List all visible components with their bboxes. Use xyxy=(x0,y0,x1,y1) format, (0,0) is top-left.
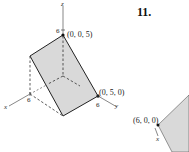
z-tick-6: 6 xyxy=(56,27,60,35)
right-figure xyxy=(155,95,189,152)
diagram-canvas xyxy=(0,0,189,152)
point-label-0-0-5: (0, 0, 5) xyxy=(67,31,92,39)
x-axis-label: x xyxy=(4,104,7,111)
y-axis-label: y xyxy=(115,103,118,110)
point-label-6-0-0: (6, 0, 0) xyxy=(133,117,158,125)
right-x-axis-label: x xyxy=(156,136,159,143)
point-0-0-5 xyxy=(61,33,64,36)
plane-region xyxy=(30,35,98,116)
exercise-number: 11. xyxy=(137,6,151,18)
point-label-0-5-0: (0, 5, 0) xyxy=(99,89,124,97)
x-tick-6: 6 xyxy=(27,96,31,104)
y-tick-6: 6 xyxy=(96,101,100,109)
z-axis-label: z xyxy=(61,1,64,8)
